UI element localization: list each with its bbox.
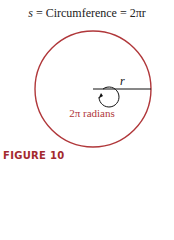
figure-caption: FIGURE 10 — [3, 150, 65, 161]
angle-arc — [99, 87, 119, 107]
radius-label: r — [120, 74, 125, 88]
angle-label: 2π radians — [69, 107, 115, 119]
arrowhead-icon — [99, 93, 104, 99]
